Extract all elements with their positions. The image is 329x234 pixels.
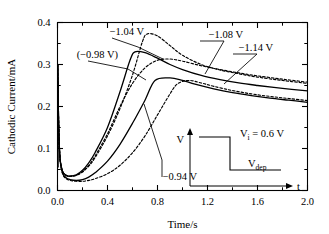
annotation-leader-d bbox=[224, 54, 257, 84]
annotation-label-d: −1.14 V bbox=[239, 42, 274, 53]
x-tick-label: 0.8 bbox=[151, 196, 164, 207]
curve-094V bbox=[58, 65, 308, 182]
inset-vi-label: Vi = 0.6 V bbox=[240, 128, 284, 142]
inset-t-arrowhead bbox=[286, 183, 293, 189]
annotation-leader-e bbox=[144, 104, 162, 177]
x-axis-label: Time/s bbox=[167, 218, 197, 230]
annotation-label-c: −1.08 V bbox=[209, 29, 244, 40]
x-tick-label: 0.4 bbox=[101, 196, 115, 207]
y-axis-label: Cathodic Current/mA bbox=[5, 59, 17, 155]
y-tick-label: 0.3 bbox=[37, 59, 50, 70]
x-tick-label: 2.0 bbox=[301, 196, 314, 207]
inset-t-label: t bbox=[297, 181, 300, 192]
x-tick-label: 1.2 bbox=[201, 196, 214, 207]
annotation-leader-c bbox=[200, 41, 224, 74]
x-tick-label: 1.6 bbox=[251, 196, 264, 207]
annotation-label-a: −1.04 V bbox=[110, 26, 145, 37]
y-tick-label: 0.0 bbox=[37, 185, 50, 196]
x-tick-label: 0.0 bbox=[51, 196, 64, 207]
annotation-leader-b bbox=[88, 61, 146, 80]
annotation-leader-a bbox=[112, 38, 163, 59]
annotation-label-b: (−0.98 V) bbox=[77, 49, 119, 61]
chart-canvas: 0.00.40.81.21.62.00.00.10.20.30.4Time/sC… bbox=[0, 0, 329, 234]
annotation-label-e: −0.94 V bbox=[163, 171, 198, 182]
y-tick-label: 0.1 bbox=[37, 143, 50, 154]
y-tick-label: 0.4 bbox=[37, 17, 51, 28]
inset-step-waveform bbox=[199, 137, 281, 170]
y-tick-label: 0.2 bbox=[37, 101, 50, 112]
curve-108V bbox=[58, 51, 308, 176]
inset-v-arrowhead bbox=[187, 128, 193, 135]
figure-container: 0.00.40.81.21.62.00.00.10.20.30.4Time/sC… bbox=[0, 0, 329, 234]
inset-v-label: V bbox=[176, 134, 184, 145]
